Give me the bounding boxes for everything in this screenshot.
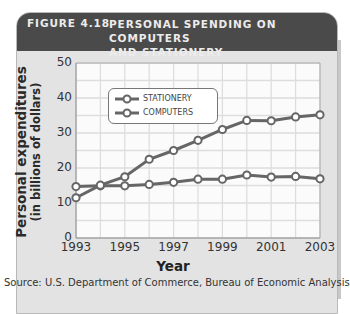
data-point [292, 173, 299, 180]
x-tick-label: 1993 [56, 240, 96, 254]
data-point [292, 113, 299, 120]
data-point [219, 176, 226, 183]
x-tick-label: 1997 [154, 240, 194, 254]
data-point [170, 147, 177, 154]
data-point [72, 183, 79, 190]
data-point [146, 181, 153, 188]
data-point [146, 156, 153, 163]
data-point [219, 126, 226, 133]
legend-label-stationery: STATIONERY [143, 94, 192, 103]
x-tick-label: 2003 [300, 240, 340, 254]
y-tick-label: 10 [50, 195, 72, 209]
data-point [316, 111, 323, 118]
data-point [243, 117, 250, 124]
data-point [72, 194, 79, 201]
legend-marker-icon [113, 93, 143, 105]
data-point [121, 182, 128, 189]
x-tick-label: 2001 [251, 240, 291, 254]
x-tick-label: 1995 [105, 240, 145, 254]
data-point [268, 174, 275, 181]
data-point [194, 137, 201, 144]
data-point [194, 176, 201, 183]
y-tick-label: 40 [50, 90, 72, 104]
chart-legend: STATIONERY COMPUTERS [108, 88, 218, 124]
legend-label-computers: COMPUTERS [143, 108, 193, 117]
x-tick-label: 1999 [202, 240, 242, 254]
y-tick-label: 20 [50, 160, 72, 174]
data-point [97, 182, 104, 189]
data-point [316, 175, 323, 182]
source-note: Source: U.S. Department of Commerce, Bur… [4, 277, 350, 288]
data-point [243, 171, 250, 178]
data-point [268, 117, 275, 124]
y-tick-label: 30 [50, 125, 72, 139]
data-point [121, 173, 128, 180]
legend-marker-icon [113, 107, 143, 119]
x-axis-label: Year [143, 258, 203, 274]
data-point [170, 179, 177, 186]
y-tick-label: 50 [50, 55, 72, 69]
